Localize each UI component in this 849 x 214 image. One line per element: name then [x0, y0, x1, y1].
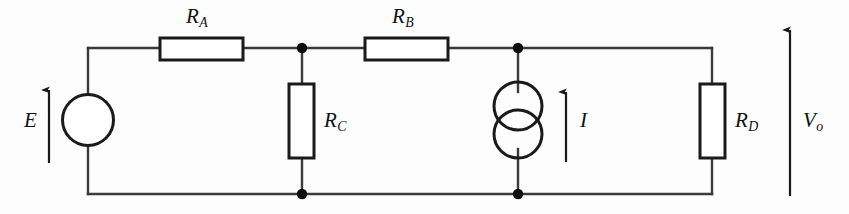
current-source-i-label: I — [580, 110, 587, 131]
resistor-rb-label-subscript: B — [405, 15, 413, 30]
voltage-source-e-symbol — [63, 95, 114, 146]
resistor-ra-label: RA — [186, 6, 208, 30]
resistor-rb-box — [365, 38, 448, 60]
resistor-rd-label-subscript: D — [748, 119, 758, 134]
junction-node-is-top — [513, 43, 523, 53]
voltage-source-e-label: E — [24, 110, 37, 131]
output-voltage-vo-label-subscript: o — [816, 119, 823, 134]
output-voltage-vo-label: Vo — [803, 110, 823, 134]
resistor-rd-label: RD — [735, 110, 758, 134]
resistor-ra-box — [160, 38, 243, 60]
resistor-rb-label: RB — [392, 6, 414, 30]
circuit-diagram: RA RB RC RD E I Vo — [0, 0, 849, 214]
junction-node-rc-bottom — [297, 189, 307, 199]
circuit-schematic-svg — [0, 0, 849, 214]
output-voltage-vo-label-text: V — [803, 108, 816, 132]
resistor-rc-label-subscript: C — [337, 119, 346, 134]
resistor-rd-box — [700, 84, 725, 158]
resistor-rc-label: RC — [324, 110, 347, 134]
resistor-ra-label-text: R — [186, 4, 199, 28]
resistor-rc-box — [289, 84, 314, 158]
resistor-rb-label-text: R — [392, 4, 405, 28]
resistor-rc-label-text: R — [324, 108, 337, 132]
junction-node-rc-top — [297, 43, 307, 53]
junction-node-is-bottom — [513, 189, 523, 199]
resistor-rd-label-text: R — [735, 108, 748, 132]
resistor-ra-label-subscript: A — [199, 15, 207, 30]
